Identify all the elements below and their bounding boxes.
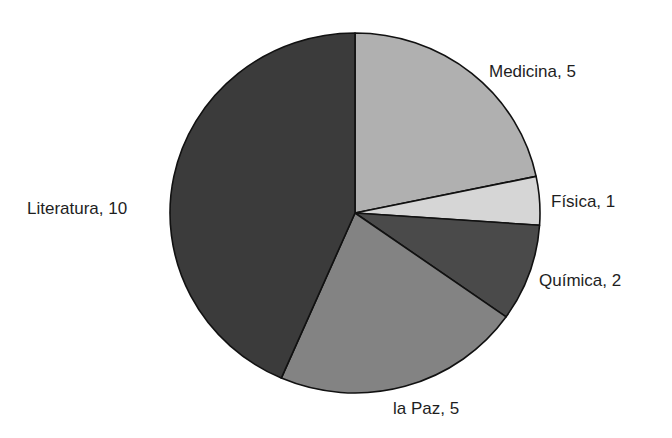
label-la-paz: la Paz, 5 xyxy=(393,400,459,417)
label-medicina: Medicina, 5 xyxy=(489,63,576,80)
label-fisica: Física, 1 xyxy=(551,193,615,210)
label-literatura: Literatura, 10 xyxy=(27,200,127,217)
label-quimica: Química, 2 xyxy=(539,272,621,289)
